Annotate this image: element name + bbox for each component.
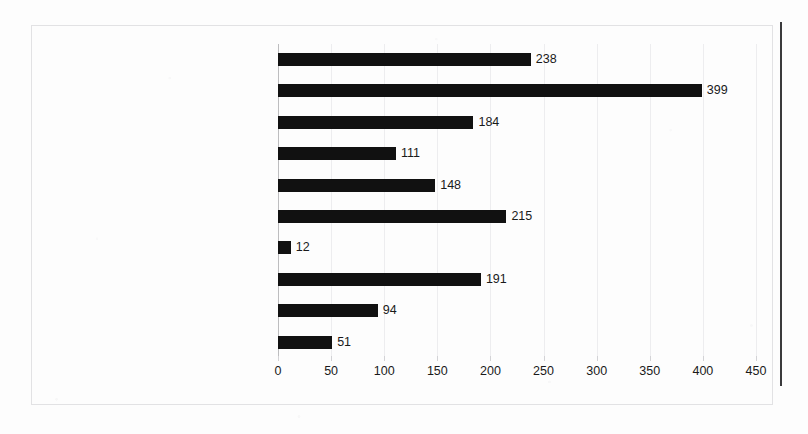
bar-row: Agriculture51 — [278, 327, 756, 358]
bar-row: Opportunity111 — [278, 138, 756, 169]
x-tick-mark — [756, 356, 757, 361]
bar-value-label: 238 — [536, 51, 557, 67]
bar — [278, 273, 481, 286]
bar — [278, 241, 291, 254]
x-tick-label: 0 — [275, 362, 282, 380]
bar — [278, 336, 332, 349]
bar-row: Disaster191 — [278, 264, 756, 295]
bar — [278, 147, 396, 160]
bar-value-label: 94 — [383, 302, 397, 318]
plot-area: Settled science238Political or ideologic… — [278, 44, 756, 358]
x-tick-mark — [703, 356, 704, 361]
scan-edge-line — [780, 22, 782, 386]
bar-value-label: 51 — [337, 334, 351, 350]
x-tick-label: 400 — [692, 362, 713, 380]
x-tick-label: 50 — [324, 362, 338, 380]
gridline — [756, 44, 757, 358]
bar — [278, 84, 702, 97]
bar-value-label: 184 — [478, 114, 499, 130]
x-tick-mark — [384, 356, 385, 361]
x-tick-label: 300 — [586, 362, 607, 380]
bar-value-label: 111 — [401, 145, 420, 161]
bar — [278, 304, 378, 317]
bar-row: Economic215 — [278, 201, 756, 232]
bar-value-label: 215 — [511, 208, 532, 224]
bar-row: Morality or ethics148 — [278, 170, 756, 201]
x-tick-mark — [597, 356, 598, 361]
bar-row: Contested science94 — [278, 295, 756, 326]
x-tick-mark — [278, 356, 279, 361]
bar-value-label: 191 — [486, 271, 507, 287]
x-tick-mark — [331, 356, 332, 361]
x-tick-label: 350 — [639, 362, 660, 380]
x-tick-mark — [490, 356, 491, 361]
bar — [278, 53, 531, 66]
x-tick-mark — [544, 356, 545, 361]
bar-row: Policy or technical184 — [278, 107, 756, 138]
x-tick-label: 150 — [427, 362, 448, 380]
bar-value-label: 12 — [296, 239, 310, 255]
x-tick-label: 250 — [533, 362, 554, 380]
bar-row: Settled science238 — [278, 44, 756, 75]
bar-row: Domestication or communitarianism12 — [278, 232, 756, 263]
bar — [278, 179, 435, 192]
x-tick-label: 200 — [480, 362, 501, 380]
x-tick-mark — [650, 356, 651, 361]
x-tick-label: 450 — [746, 362, 767, 380]
bar — [278, 210, 506, 223]
bar-row: Political or ideological contest399 — [278, 75, 756, 106]
bar-value-label: 148 — [440, 177, 461, 193]
x-axis-tick-labels: 050100150200250300350400450 — [278, 362, 756, 384]
x-tick-mark — [437, 356, 438, 361]
bar-value-label: 399 — [707, 82, 728, 98]
x-tick-label: 100 — [374, 362, 395, 380]
chart-page: Settled science238Political or ideologic… — [0, 0, 808, 434]
bar — [278, 116, 473, 129]
